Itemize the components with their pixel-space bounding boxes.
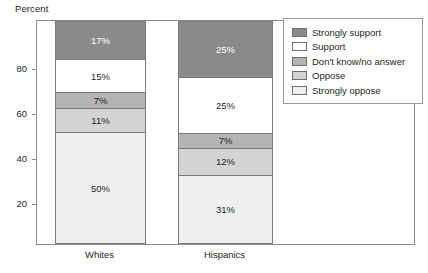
legend-label: Support [312, 41, 345, 52]
bar-hispanics: 25% 25% 7% 12% 31% [178, 21, 273, 244]
segment-whites-support: 15% [55, 59, 146, 92]
legend-item-support: Support [292, 41, 416, 53]
segment-value-label: 7% [94, 95, 108, 106]
segment-value-label: 31% [216, 204, 235, 215]
legend-item-strongly-support: Strongly support [292, 26, 416, 38]
segment-value-label: 50% [91, 183, 110, 194]
segment-hispanics-support: 25% [178, 77, 273, 133]
segment-hispanics-strongly-support: 25% [178, 21, 273, 77]
segment-hispanics-oppose: 12% [178, 148, 273, 175]
y-tick-80-label: 80 [16, 63, 27, 74]
segment-value-label: 17% [91, 35, 110, 46]
segment-value-label: 12% [216, 156, 235, 167]
segment-hispanics-strongly-oppose: 31% [178, 175, 273, 244]
segment-whites-oppose: 11% [55, 108, 146, 133]
chart-legend: Strongly support Support Don't know/no a… [283, 18, 423, 104]
y-tick-60-label: 60 [16, 108, 27, 119]
category-label-whites: Whites [54, 249, 145, 260]
legend-item-oppose: Oppose [292, 70, 416, 82]
legend-swatch-strongly-support [292, 28, 307, 37]
segment-whites-strongly-support: 17% [55, 21, 146, 59]
segment-hispanics-dont-know: 7% [178, 133, 273, 149]
legend-label: Oppose [312, 70, 345, 81]
category-label-hispanics: Hispanics [177, 249, 272, 260]
legend-swatch-strongly-oppose [292, 86, 307, 95]
stacked-bar-chart: Percent 80 60 40 20 17% 15% 7% 11% [0, 0, 428, 273]
legend-swatch-dont-know [292, 57, 307, 66]
legend-item-dont-know: Don't know/no answer [292, 55, 416, 67]
segment-value-label: 25% [216, 100, 235, 111]
legend-label: Strongly support [312, 27, 381, 38]
bar-whites: 17% 15% 7% 11% 50% [55, 21, 146, 244]
segment-value-label: 11% [91, 115, 109, 126]
y-axis-title: Percent [15, 3, 48, 14]
y-tick-20-label: 20 [16, 198, 27, 209]
segment-value-label: 7% [219, 135, 233, 146]
y-tick-40-label: 40 [16, 153, 27, 164]
segment-value-label: 25% [216, 44, 235, 55]
segment-whites-strongly-oppose: 50% [55, 132, 146, 244]
legend-label: Strongly oppose [312, 85, 381, 96]
legend-swatch-oppose [292, 71, 307, 80]
segment-whites-dont-know: 7% [55, 92, 146, 108]
legend-label: Don't know/no answer [312, 56, 405, 67]
segment-value-label: 15% [91, 71, 110, 82]
legend-swatch-support [292, 42, 307, 51]
legend-item-strongly-oppose: Strongly oppose [292, 84, 416, 96]
